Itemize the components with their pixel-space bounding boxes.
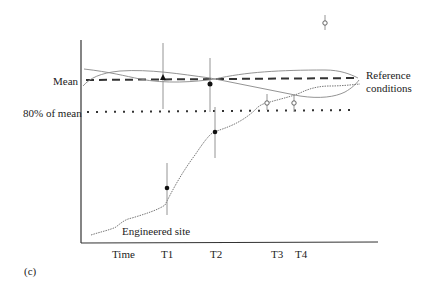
point-outlier-open — [323, 21, 327, 25]
point-t2-engineered — [213, 130, 218, 135]
eighty-percent-line — [87, 110, 356, 112]
mean-line — [86, 78, 358, 80]
engineered-site-label: Engineered site — [122, 225, 190, 237]
x-tick-t2: T2 — [210, 248, 222, 260]
reference-curve-lower — [83, 71, 359, 98]
point-t1-reference-triangle — [160, 74, 166, 80]
reference-conditions-label-line2: conditions — [366, 82, 412, 94]
x-tick-t4: T4 — [295, 248, 307, 260]
point-t1-engineered — [165, 186, 170, 191]
x-tick-t3: T3 — [271, 248, 283, 260]
point-t3-engineered-open — [265, 101, 269, 105]
reference-conditions-label-line1: Reference — [366, 69, 411, 81]
restoration-trajectory-figure: Mean 80% of mean Reference conditions En… — [0, 0, 436, 286]
eighty-percent-label: 80% of mean — [23, 107, 82, 119]
point-t2-reference — [208, 82, 213, 87]
x-tick-t1: T1 — [161, 248, 173, 260]
x-axis — [81, 242, 378, 243]
panel-label: (c) — [24, 265, 36, 277]
engineered-site-curve — [91, 84, 360, 235]
diagram-canvas — [0, 0, 436, 286]
x-axis-title: Time — [112, 248, 135, 260]
mean-label: Mean — [53, 75, 78, 87]
point-t4-engineered-open — [292, 101, 296, 105]
